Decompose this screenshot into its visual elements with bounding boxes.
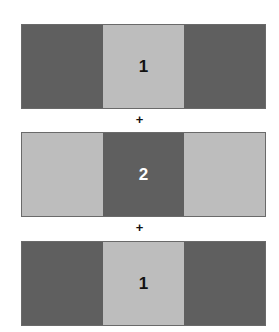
bottom-band: 1 — [21, 241, 266, 326]
top-band-right-cell — [184, 25, 265, 108]
top-band-left-cell — [22, 25, 103, 108]
bottom-band-right-cell — [184, 242, 265, 325]
plus-operator-1: + — [0, 113, 279, 127]
middle-band-left-cell — [22, 133, 103, 216]
plus-operator-2: + — [0, 221, 279, 235]
bottom-band-left-cell — [22, 242, 103, 325]
middle-band-right-cell — [184, 133, 265, 216]
middle-band: 2 — [21, 132, 266, 217]
top-band: 1 — [21, 24, 266, 109]
top-band-center-cell: 1 — [103, 25, 184, 108]
middle-band-center-cell: 2 — [103, 133, 184, 216]
bottom-band-center-cell: 1 — [103, 242, 184, 325]
